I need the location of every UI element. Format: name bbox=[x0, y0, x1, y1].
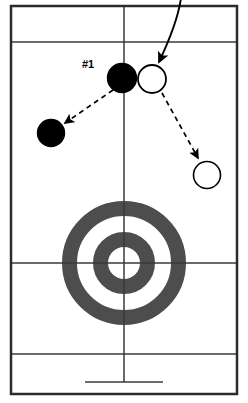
curling-sheet-diagram: #1 bbox=[0, 0, 248, 403]
resulting-light-stone[interactable] bbox=[194, 162, 221, 189]
resulting-dark-stone[interactable] bbox=[38, 120, 65, 147]
delivered-light-stone[interactable] bbox=[138, 65, 166, 93]
shot-number-label: #1 bbox=[82, 58, 94, 70]
stationary-dark-stone[interactable] bbox=[108, 64, 137, 93]
sheet-svg bbox=[0, 0, 248, 403]
